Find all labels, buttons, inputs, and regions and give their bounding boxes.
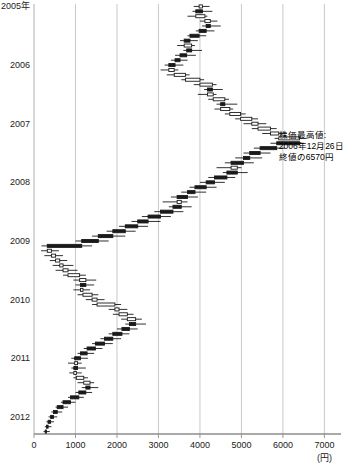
candle-body-down [82, 239, 99, 242]
candle-body-down [86, 386, 90, 389]
candle-body-up [51, 254, 55, 257]
candle-body-down [173, 205, 181, 208]
candle-body-up [80, 279, 86, 282]
x-tick-label-1000: 1000 [65, 440, 85, 450]
candle-body-up [115, 308, 119, 311]
x-tick-label-2000: 2000 [107, 440, 127, 450]
candle-body-down [161, 210, 173, 213]
candle-body-down [221, 103, 225, 106]
candle-body-down [190, 34, 199, 37]
stock-candlestick-chart: 01000200030004000500060007000(円)2005年200… [0, 0, 358, 465]
candle-body-down [214, 176, 226, 179]
candle-body-up [207, 93, 213, 96]
candle-body-down [74, 367, 78, 370]
candle-body-up [84, 381, 90, 384]
y-year-label-2007: 2007 [10, 119, 30, 129]
candle-body-up [97, 303, 115, 306]
candle-body-up [200, 83, 212, 86]
candle-body-down [80, 352, 87, 355]
candle-body-down [47, 244, 81, 247]
candle-body-up [177, 200, 181, 203]
x-tick-label-7000: 7000 [314, 440, 334, 450]
candle-body-down [113, 230, 125, 233]
candle-body-down [184, 39, 190, 42]
candle-body-down [206, 24, 210, 27]
candle-body-down [260, 147, 277, 150]
candle-body-down [113, 332, 122, 335]
candle-body-down [46, 425, 48, 428]
candle-body-down [57, 406, 63, 409]
x-tick-label-5000: 5000 [231, 440, 251, 450]
candle-body-up [83, 293, 92, 296]
y-year-label-2008: 2008 [10, 177, 30, 187]
candle-body-down [231, 161, 243, 164]
candle-body-down [227, 171, 237, 174]
y-year-label-2005: 2005年 [1, 0, 30, 11]
candle-body-down [80, 283, 85, 286]
candle-body-up [252, 122, 258, 125]
candle-body-down [148, 215, 160, 218]
candle-body-up [92, 298, 97, 301]
candle-body-down [180, 54, 187, 57]
y-year-label-2012: 2012 [10, 412, 30, 422]
candle-body-down [187, 49, 192, 52]
candle-body-down [51, 415, 54, 418]
candle-body-up [196, 15, 205, 18]
candle-body-down [75, 357, 81, 360]
candle-body-up [80, 288, 82, 291]
y-year-label-2006: 2006 [10, 60, 30, 70]
x-tick-label-4000: 4000 [190, 440, 210, 450]
peak-annotation-line-2: 2006年12月26日 [279, 141, 344, 151]
candle-body-up [119, 313, 127, 316]
candle-body-down [199, 29, 206, 32]
candle-body-down [87, 347, 95, 350]
candle-body-down [53, 410, 57, 413]
candle-body-down [63, 401, 70, 404]
candle-body-up [270, 132, 278, 135]
candle-body-down [95, 342, 104, 345]
candle-body-up [47, 249, 51, 252]
peak-annotation: 株価最高値:2006年12月26日終値の6570円 [279, 130, 344, 162]
candle-body-up [56, 259, 60, 262]
candle-body-down [175, 59, 180, 62]
candle-body-down [207, 88, 212, 91]
candle-body-up [68, 274, 80, 277]
candle-body-down [48, 420, 50, 423]
candle-body-down [79, 391, 86, 394]
candle-series [41, 5, 307, 433]
candle-body-down [196, 10, 203, 13]
candle-body-up [205, 20, 210, 23]
y-year-label-2011: 2011 [11, 353, 30, 363]
candle-body-up [184, 44, 191, 47]
chart-canvas: 01000200030004000500060007000(円)2005年200… [0, 0, 358, 465]
candle-body-down [169, 64, 175, 67]
candle-body-down [244, 156, 250, 159]
candle-body-up [241, 117, 252, 120]
candle-body-down [71, 396, 79, 399]
candle-body-up [75, 362, 78, 365]
candle-body-down [177, 195, 187, 198]
candle-body-up [169, 68, 174, 71]
candle-body-up [231, 166, 237, 169]
peak-annotation-line-1: 株価最高値: [279, 130, 326, 140]
candle-body-down [129, 323, 135, 326]
candle-body-up [221, 108, 230, 111]
candle-body-down [105, 337, 113, 340]
candle-body-up [199, 5, 202, 8]
candle-body-down [195, 186, 206, 189]
x-tick-label-3000: 3000 [148, 440, 168, 450]
candle-body-down [250, 152, 260, 155]
candle-body-up [63, 269, 68, 272]
candle-body-down [98, 235, 113, 238]
candle-body-up [230, 112, 241, 115]
x-tick-label-0: 0 [31, 440, 36, 450]
x-axis-unit-label: (円) [317, 453, 332, 463]
candle-body-up [174, 73, 185, 76]
candle-body-up [74, 371, 76, 374]
y-year-label-2010: 2010 [10, 295, 30, 305]
candle-body-up [127, 318, 135, 321]
candle-body-up [185, 78, 200, 81]
candle-body-down [45, 430, 46, 433]
candle-body-down [122, 327, 129, 330]
candle-body-down [206, 181, 214, 184]
